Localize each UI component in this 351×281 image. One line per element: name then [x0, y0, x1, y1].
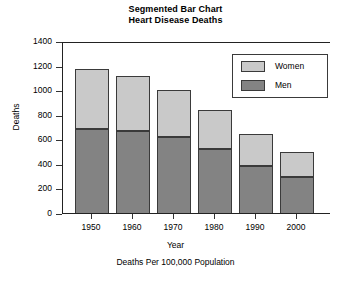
x-tick-mark — [255, 214, 256, 219]
x-tick-mark — [132, 214, 133, 219]
y-tick-label: 0 — [18, 209, 52, 218]
bar-segment-men-2000 — [280, 177, 314, 214]
legend-label-men: Men — [275, 79, 292, 92]
x-axis-label: Year — [0, 240, 351, 250]
bar-segment-women-2000 — [280, 152, 314, 177]
bar-segment-men-1980 — [198, 149, 232, 214]
chart-figure: Segmented Bar Chart Heart Disease Deaths… — [0, 0, 351, 281]
bar-1950 — [75, 42, 109, 214]
bar-segment-women-1950 — [75, 69, 109, 129]
y-tick-mark — [56, 214, 62, 215]
x-tick-mark — [214, 214, 215, 219]
y-tick-label: 600 — [18, 135, 52, 144]
bar-segment-women-1980 — [198, 110, 232, 149]
y-tick-label: 1000 — [18, 86, 52, 95]
chart-legend: Women Men — [232, 54, 328, 98]
bar-segment-women-1970 — [157, 90, 191, 137]
bar-segment-men-1990 — [239, 166, 273, 214]
chart-title: Segmented Bar Chart — [0, 4, 351, 15]
chart-caption: Deaths Per 100,000 Population — [0, 257, 351, 267]
legend-swatch-women — [241, 61, 265, 72]
chart-title-block: Segmented Bar Chart Heart Disease Deaths — [0, 4, 351, 26]
chart-subtitle: Heart Disease Deaths — [0, 15, 351, 26]
x-tick-mark — [173, 214, 174, 219]
x-tick-label-1970: 1970 — [151, 222, 195, 232]
y-tick-label: 200 — [18, 184, 52, 193]
y-tick-label: 800 — [18, 111, 52, 120]
bar-segment-men-1970 — [157, 137, 191, 214]
y-tick-label: 1200 — [18, 62, 52, 71]
x-tick-label-1950: 1950 — [69, 222, 113, 232]
legend-label-women: Women — [275, 60, 304, 73]
bar-1980 — [198, 42, 232, 214]
x-tick-mark — [296, 214, 297, 219]
bar-segment-women-1960 — [116, 76, 150, 131]
x-tick-label-1990: 1990 — [233, 222, 277, 232]
bar-segment-men-1960 — [116, 131, 150, 214]
x-axis-line — [62, 213, 330, 214]
bar-1970 — [157, 42, 191, 214]
x-tick-label-1980: 1980 — [192, 222, 236, 232]
x-tick-label-1960: 1960 — [110, 222, 154, 232]
bar-segment-women-1990 — [239, 134, 273, 166]
y-tick-label: 400 — [18, 160, 52, 169]
x-tick-label-2000: 2000 — [274, 222, 318, 232]
bar-segment-men-1950 — [75, 129, 109, 214]
bar-1960 — [116, 42, 150, 214]
legend-swatch-men — [241, 80, 265, 91]
y-tick-label: 1400 — [18, 37, 52, 46]
x-tick-mark — [91, 214, 92, 219]
